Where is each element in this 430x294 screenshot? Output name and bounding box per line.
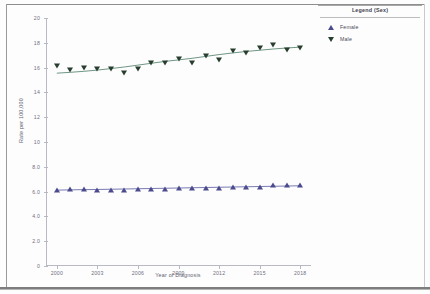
data-point-female	[176, 185, 182, 190]
data-point-male	[162, 60, 168, 65]
legend-title: Legend (Sex)	[318, 7, 422, 13]
data-point-female	[270, 183, 276, 188]
y-tick-label: 18	[34, 40, 40, 46]
data-point-female	[257, 184, 263, 189]
data-point-male	[81, 65, 87, 70]
x-tick-label: 2006	[132, 270, 144, 276]
figure-border-bottom-shadow	[0, 289, 430, 290]
y-tick-label: 6.0	[32, 189, 40, 195]
data-point-male	[54, 64, 60, 69]
chart-figure: Rate per 100,000 Year of Diagnosis 02.04…	[0, 0, 430, 294]
y-tick-label: 12	[34, 114, 40, 120]
data-point-female	[81, 187, 87, 192]
data-point-female	[243, 184, 249, 189]
data-point-female	[284, 183, 290, 188]
data-point-male	[270, 43, 276, 48]
x-tick-label: 2000	[51, 270, 63, 276]
y-tick-label: 16	[34, 65, 40, 71]
x-tick-label: 2018	[294, 270, 306, 276]
data-point-male	[148, 60, 154, 65]
data-point-female	[135, 187, 141, 192]
x-tick-label: 2015	[253, 270, 265, 276]
data-point-male	[297, 45, 303, 50]
data-point-female	[297, 183, 303, 188]
legend-top-rule	[318, 5, 422, 6]
data-point-female	[203, 185, 209, 190]
legend-marker-triangle-up-icon	[328, 25, 334, 30]
y-tick-label: 10	[34, 139, 40, 145]
figure-border-right	[424, 4, 425, 288]
data-point-female	[148, 187, 154, 192]
data-point-female	[216, 185, 222, 190]
data-point-female	[162, 187, 168, 192]
data-point-male	[176, 56, 182, 61]
plot-area: 02.04.06.08.0101214161820 20002003200620…	[46, 18, 311, 266]
legend-marker-triangle-down-icon	[328, 37, 334, 42]
data-point-male	[94, 66, 100, 71]
trend-lines	[46, 18, 311, 266]
legend-label: Female	[340, 24, 359, 30]
data-point-female	[54, 188, 60, 193]
x-tick-label: 2012	[213, 270, 225, 276]
data-point-male	[121, 70, 127, 75]
x-tick-label: 2003	[91, 270, 103, 276]
legend-label: Male	[340, 36, 352, 42]
data-point-male	[203, 54, 209, 59]
data-point-male	[257, 45, 263, 50]
data-point-male	[189, 60, 195, 65]
y-tick-label: 4.0	[32, 213, 40, 219]
data-point-male	[243, 50, 249, 55]
data-point-female	[230, 184, 236, 189]
y-tick-label: 14	[34, 89, 40, 95]
legend-title-underline	[320, 17, 420, 18]
data-point-male	[108, 66, 114, 71]
data-point-female	[189, 185, 195, 190]
x-tick-label: 2009	[172, 270, 184, 276]
y-axis-label: Rate per 100,000	[18, 98, 24, 143]
y-tick: 0	[44, 266, 48, 267]
y-tick-label: 8.0	[32, 164, 40, 170]
y-tick-label: 20	[34, 15, 40, 21]
y-tick-label: 2.0	[32, 238, 40, 244]
data-point-male	[216, 58, 222, 63]
data-point-male	[284, 48, 290, 53]
y-tick-label: 0	[37, 263, 40, 269]
figure-border-left	[6, 4, 7, 288]
data-point-female	[121, 188, 127, 193]
data-point-male	[67, 68, 73, 73]
data-point-female	[67, 187, 73, 192]
data-point-female	[108, 188, 114, 193]
data-point-female	[94, 188, 100, 193]
data-point-male	[230, 49, 236, 54]
data-point-male	[135, 66, 141, 71]
